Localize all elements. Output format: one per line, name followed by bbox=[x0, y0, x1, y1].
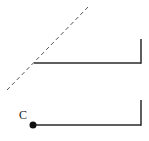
point-c-label: C bbox=[19, 108, 27, 122]
diagram-canvas: C bbox=[0, 0, 149, 141]
point-c-marker bbox=[30, 122, 37, 129]
dashed-diagonal-line bbox=[7, 5, 90, 90]
